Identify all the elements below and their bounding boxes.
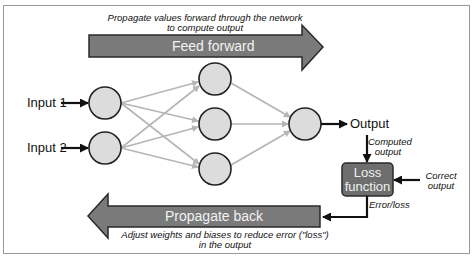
edges-hidden-output [231, 83, 290, 165]
input-node-1 [89, 87, 121, 119]
hidden-node-2 [199, 108, 231, 140]
input-node-2 [89, 132, 121, 164]
feed-forward-label: Feed forward [172, 38, 254, 54]
loss-function-label: Loss function [342, 166, 393, 194]
error-loss-label: Error/loss [369, 200, 410, 210]
output-label: Output [350, 116, 389, 131]
correct-output-label: Correct output [418, 171, 464, 191]
loss-line1: Loss [342, 166, 393, 180]
hidden-node-3 [199, 153, 231, 185]
hidden-node-1 [199, 63, 231, 95]
correct-output-line2: output [418, 181, 464, 191]
input-1-label: Input 1 [27, 95, 67, 110]
feed-forward-caption: Propagate values forward through the net… [80, 13, 330, 33]
output-node [289, 108, 321, 140]
input-2-label: Input 2 [27, 140, 67, 155]
feed-forward-caption-line2: to compute output [80, 23, 330, 33]
error-loss-path [323, 196, 367, 217]
propagate-back-caption-line2: in the output [100, 240, 350, 250]
computed-output-label: Computed output [368, 137, 408, 157]
edges-input-hidden [121, 82, 199, 167]
propagate-back-caption: Adjust weights and biases to reduce erro… [100, 230, 350, 250]
computed-output-line2: output [368, 147, 408, 157]
loss-line2: function [342, 180, 393, 194]
propagate-back-label: Propagate back [165, 208, 263, 224]
